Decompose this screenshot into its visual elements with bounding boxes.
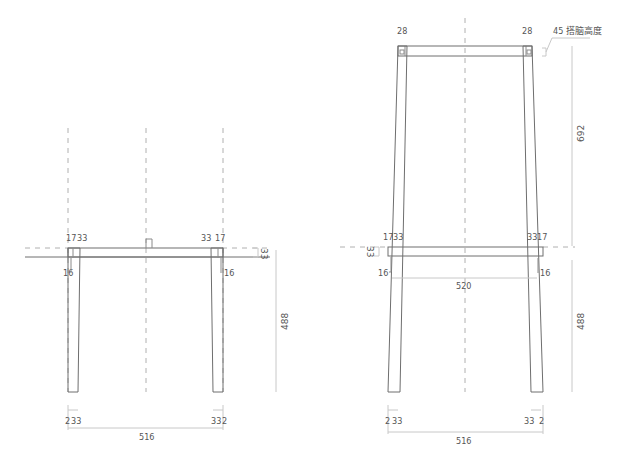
label-right-taper: 16 [224, 268, 234, 278]
label-side-right-taper: 16 [540, 268, 550, 278]
label-back-height: 692 [576, 125, 586, 142]
label-seat-height: 488 [280, 313, 290, 330]
rail-note-leader [546, 38, 590, 52]
label-right-outer: 17 [215, 233, 225, 243]
label-seat-thickness: 33 [259, 248, 269, 259]
dim-rail-height [542, 48, 546, 56]
label-top-post-left: 28 [397, 26, 407, 36]
label-bottom-right-gap: 2 [222, 416, 227, 426]
label-side-bottom-left-leg: 33 [392, 416, 402, 426]
label-left-taper: 16 [63, 268, 73, 278]
label-top-post-right: 28 [522, 26, 532, 36]
label-left-outer: 17 [66, 233, 76, 243]
back-post-right [523, 46, 543, 392]
front-view: 17 33 33 17 16 16 33 488 2 33 33 2 516 [25, 128, 290, 442]
label-rail-note: 45 搭脑高度 [553, 25, 602, 36]
label-side-right-inner: 33 [527, 232, 537, 242]
label-left-inner: 33 [77, 233, 87, 243]
label-seat-depth: 520 [456, 281, 471, 291]
label-side-bottom-right-leg: 33 [524, 416, 534, 426]
label-bottom-left-gap: 2 [65, 416, 70, 426]
label-side-bottom-left-gap: 2 [385, 416, 390, 426]
label-side-left-inner: 33 [393, 232, 403, 242]
label-overall-width: 516 [139, 432, 154, 442]
label-bottom-left-leg: 33 [71, 416, 81, 426]
seat-tab [146, 239, 152, 248]
tenon-mark-right [527, 50, 531, 54]
label-side-overall-width: 516 [456, 436, 471, 446]
side-view: 28 28 45 搭脑高度 692 17 33 33 17 33 16 16 5… [340, 18, 602, 446]
tenon-mark-left [400, 50, 404, 54]
label-side-left-taper: 16 [378, 268, 388, 278]
dim-seat-thickness [253, 248, 258, 257]
chair-drawing-canvas: 17 33 33 17 16 16 33 488 2 33 33 2 516 [0, 0, 619, 471]
label-side-seat-height: 488 [576, 313, 586, 330]
label-side-right-outer: 17 [537, 232, 547, 242]
label-right-inner: 33 [201, 233, 211, 243]
label-side-seat-thickness: 33 [365, 246, 375, 257]
label-side-left-outer: 17 [383, 232, 393, 242]
side-taper-leader-left [389, 257, 391, 272]
label-bottom-right-leg: 33 [211, 416, 221, 426]
label-side-bottom-right-gap: 2 [539, 416, 544, 426]
back-post-left [388, 46, 407, 392]
